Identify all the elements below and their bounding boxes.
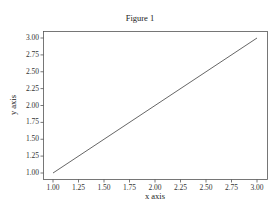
y-tick-marks (41, 38, 44, 173)
y-tick-label: 2.75 (9, 50, 39, 59)
x-axis-label: x axis (43, 191, 267, 201)
y-tick-label: 1.25 (9, 151, 39, 160)
y-tick-label: 3.00 (9, 33, 39, 42)
y-tick-label: 2.50 (9, 67, 39, 76)
figure: Figure 1 1.00 1.25 (0, 0, 280, 214)
y-tick-label: 1.50 (9, 134, 39, 143)
data-line (53, 38, 257, 173)
y-axis-label: y axis (8, 80, 18, 130)
y-tick-label: 1.00 (9, 168, 39, 177)
plot-area (0, 0, 280, 214)
